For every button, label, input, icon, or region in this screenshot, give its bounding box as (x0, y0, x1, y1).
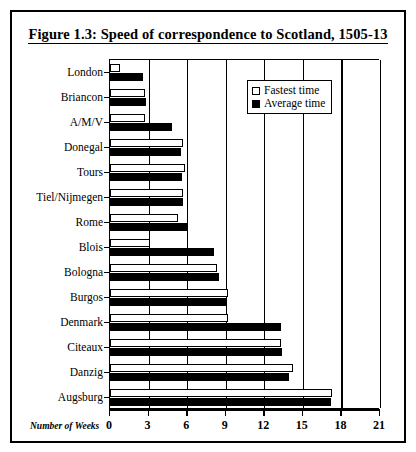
x-tick-label-6: 6 (183, 418, 189, 433)
bar-fastest (110, 89, 145, 97)
x-tick-9 (225, 409, 226, 416)
x-axis-title: Number of Weeks (30, 421, 99, 431)
legend-swatch-white-square (252, 87, 260, 95)
bar-fastest (110, 364, 293, 372)
bar-average (110, 123, 172, 131)
bar-group: A/M/V (110, 114, 379, 132)
bar-average (110, 148, 181, 156)
category-label-tours: Tours (77, 167, 103, 179)
x-tick-3 (148, 409, 149, 416)
bar-average (110, 198, 183, 206)
category-label-blois: Blois (79, 242, 103, 254)
category-label-tiel-nijmegen: Tiel/Nijmegen (36, 192, 103, 204)
x-tick-label-21: 21 (373, 418, 385, 433)
bar-average (110, 398, 331, 406)
bar-fastest (110, 239, 150, 247)
legend-label-fastest: Fastest time (264, 84, 319, 97)
legend-swatch-black-square (252, 100, 260, 108)
category-label-burgos: Burgos (70, 292, 103, 304)
x-tick-label-12: 12 (257, 418, 269, 433)
category-label-london: London (67, 67, 103, 79)
bar-group: Citeaux (110, 339, 379, 357)
bar-average (110, 223, 187, 231)
bar-group: Denmark (110, 314, 379, 332)
bar-group: London (110, 64, 379, 82)
chart-legend: Fastest time Average time (247, 80, 332, 114)
bar-group: Blois (110, 239, 379, 257)
category-label-citeaux: Citeaux (67, 342, 103, 354)
bar-average (110, 323, 281, 331)
bar-group: Briancon (110, 89, 379, 107)
x-tick-0 (109, 409, 110, 416)
x-axis-line (109, 409, 379, 411)
bar-group: Rome (110, 214, 379, 232)
x-tick-label-3: 3 (145, 418, 151, 433)
category-label-briancon: Briancon (61, 92, 103, 104)
legend-item-average: Average time (252, 97, 325, 110)
gridline-21 (380, 60, 381, 408)
plot-area: LondonBrianconA/M/VDonegalToursTiel/Nijm… (109, 59, 379, 409)
category-label-danzig: Danzig (70, 367, 103, 379)
figure-frame: Figure 1.3: Speed of correspondence to S… (10, 10, 406, 443)
bar-average (110, 373, 289, 381)
bar-fastest (110, 114, 145, 122)
bar-group: Danzig (110, 364, 379, 382)
x-tick-label-15: 15 (296, 418, 308, 433)
legend-item-fastest: Fastest time (252, 84, 325, 97)
bar-average (110, 248, 214, 256)
x-tick-label-9: 9 (222, 418, 228, 433)
bar-fastest (110, 164, 185, 172)
category-label-donegal: Donegal (64, 142, 103, 154)
bar-average (110, 273, 219, 281)
chart-title-text: Figure 1.3: Speed of correspondence to S… (28, 26, 387, 44)
bar-fastest (110, 339, 281, 347)
bar-group: Tiel/Nijmegen (110, 189, 379, 207)
bar-average (110, 73, 143, 81)
bar-average (110, 173, 182, 181)
x-tick-18 (340, 409, 341, 416)
category-label-augsburg: Augsburg (58, 392, 103, 404)
bar-fastest (110, 64, 120, 72)
bar-fastest (110, 189, 183, 197)
bar-average (110, 98, 146, 106)
bar-fastest (110, 264, 217, 272)
x-tick-15 (302, 409, 303, 416)
category-label-denmark: Denmark (60, 317, 103, 329)
x-tick-21 (379, 409, 380, 416)
bar-fastest (110, 139, 183, 147)
bar-group: Augsburg (110, 389, 379, 407)
bar-group: Tours (110, 164, 379, 182)
bar-fastest (110, 289, 228, 297)
bar-group: Bologna (110, 264, 379, 282)
bar-fastest (110, 314, 228, 322)
bar-average (110, 348, 282, 356)
category-label-bologna: Bologna (64, 267, 103, 279)
page-title: Figure 1.3: Speed of correspondence to S… (12, 26, 404, 43)
x-tick-label-18: 18 (334, 418, 346, 433)
category-label-a-m-v: A/M/V (70, 117, 103, 129)
bar-fastest (110, 389, 332, 397)
bar-group: Donegal (110, 139, 379, 157)
category-label-rome: Rome (76, 217, 103, 229)
x-tick-label-0: 0 (106, 418, 112, 433)
x-tick-6 (186, 409, 187, 416)
bar-group: Burgos (110, 289, 379, 307)
x-tick-12 (263, 409, 264, 416)
bar-average (110, 298, 227, 306)
legend-label-average: Average time (264, 97, 325, 110)
bar-fastest (110, 214, 178, 222)
